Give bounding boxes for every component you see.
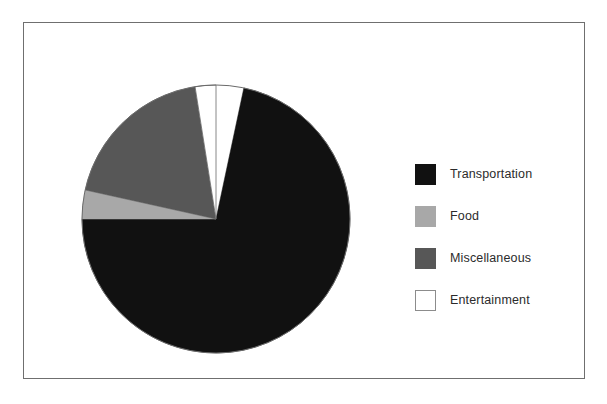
pie-slices-group (82, 85, 350, 353)
chart-frame: Transportation Food Miscellaneous Entert… (23, 22, 585, 379)
legend-label-food: Food (450, 209, 479, 223)
legend-label-entertainment: Entertainment (450, 293, 530, 307)
legend-swatch-miscellaneous (415, 248, 436, 269)
pie-chart-svg (81, 84, 351, 354)
legend-swatch-entertainment (415, 290, 436, 311)
chart-screenshot: Transportation Food Miscellaneous Entert… (0, 0, 607, 404)
legend-item-miscellaneous[interactable]: Miscellaneous (415, 237, 575, 279)
legend-item-entertainment[interactable]: Entertainment (415, 279, 575, 321)
legend-swatch-transportation (415, 164, 436, 185)
legend-swatch-food (415, 206, 436, 227)
legend-label-transportation: Transportation (450, 167, 532, 181)
chart-legend: Transportation Food Miscellaneous Entert… (415, 153, 575, 321)
pie-chart (81, 84, 351, 354)
legend-item-transportation[interactable]: Transportation (415, 153, 575, 195)
legend-item-food[interactable]: Food (415, 195, 575, 237)
legend-label-miscellaneous: Miscellaneous (450, 251, 531, 265)
